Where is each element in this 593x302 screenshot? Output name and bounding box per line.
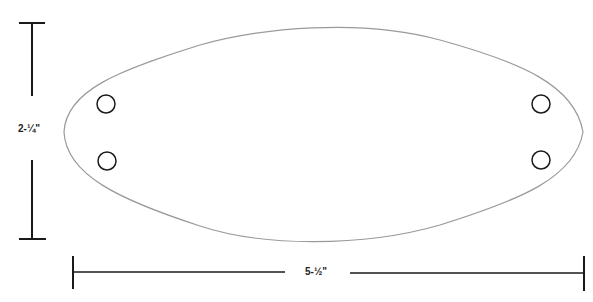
hole-top-right xyxy=(532,95,550,113)
hole-bottom-right xyxy=(532,151,550,169)
width-dimension-line xyxy=(73,256,584,291)
diagram-canvas xyxy=(0,0,593,302)
hole-bottom-left xyxy=(98,152,116,170)
width-label: 5-½" xyxy=(305,266,327,278)
height-label: 2-¼" xyxy=(18,123,40,135)
hole-top-left xyxy=(97,95,115,113)
plate-outline xyxy=(64,27,583,241)
